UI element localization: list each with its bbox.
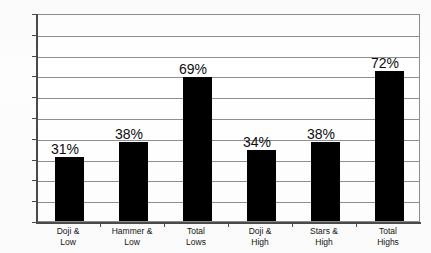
category-label-line2: High	[226, 237, 294, 248]
gridline	[37, 202, 419, 203]
y-axis-tick-mark	[32, 180, 37, 181]
category-label-line2: Highs	[354, 237, 422, 248]
gridline	[37, 36, 419, 37]
x-axis-category-label: TotalHighs	[354, 226, 422, 248]
y-axis-tick-mark	[32, 76, 37, 77]
bar	[183, 77, 212, 221]
bar-value-label: 38%	[294, 126, 348, 142]
category-label-line2: Low	[34, 237, 102, 248]
category-label-line1: Total	[187, 226, 205, 236]
y-axis-tick-mark	[32, 139, 37, 140]
category-label-line1: Doji &	[249, 226, 272, 236]
bar	[55, 157, 84, 221]
y-axis-tick-mark	[32, 118, 37, 119]
x-axis-category-label: Doji &Low	[34, 226, 102, 248]
category-label-line1: Stars &	[310, 226, 338, 236]
gridline	[37, 119, 419, 120]
bar-value-label: 72%	[358, 55, 412, 71]
gridline	[37, 161, 419, 162]
bar-value-label: 31%	[38, 141, 92, 157]
category-label-line2: High	[290, 237, 358, 248]
gridline	[37, 98, 419, 99]
x-axis-tick-mark	[100, 222, 101, 227]
category-label-line2: Low	[98, 237, 166, 248]
x-axis-category-label: Doji &High	[226, 226, 294, 248]
y-axis-tick-mark	[32, 14, 37, 15]
bar-value-label: 38%	[102, 126, 156, 142]
y-axis-tick-mark	[32, 35, 37, 36]
y-axis-tick-mark	[32, 56, 37, 57]
bar	[247, 150, 276, 221]
x-axis-category-label: TotalLows	[162, 226, 230, 248]
chart-page: 0%10%20%30%40%50%60%70%80%90%100% Doji &…	[0, 0, 431, 253]
gridline	[37, 181, 419, 182]
bar-value-label: 34%	[230, 134, 284, 150]
category-label-line1: Total	[379, 226, 397, 236]
gridline	[37, 140, 419, 141]
x-axis-tick-mark	[292, 222, 293, 227]
x-axis-tick-mark	[356, 222, 357, 227]
bar	[311, 142, 340, 221]
x-axis-category-label: Hammer &Low	[98, 226, 166, 248]
x-axis-tick-mark	[164, 222, 165, 227]
y-axis-tick-mark	[32, 97, 37, 98]
category-label-line1: Doji &	[57, 226, 80, 236]
bar	[119, 142, 148, 221]
x-axis-category-label: Stars &High	[290, 226, 358, 248]
bar-value-label: 69%	[166, 61, 220, 77]
plot-area	[36, 14, 420, 222]
gridline	[37, 77, 419, 78]
y-axis-tick-mark	[32, 201, 37, 202]
y-axis-tick-mark	[32, 160, 37, 161]
x-axis-tick-mark	[228, 222, 229, 227]
category-label-line2: Lows	[162, 237, 230, 248]
category-label-line1: Hammer &	[112, 226, 153, 236]
bar	[375, 71, 404, 221]
